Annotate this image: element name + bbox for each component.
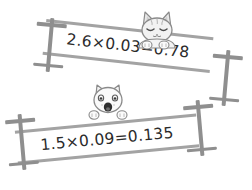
- bar-post-bottom-right: [188, 99, 213, 157]
- bar-post-top-left: [38, 17, 63, 73]
- equation-bar-top: 2.6×0.03=0.78: [43, 19, 214, 73]
- bar-post-bottom-left: [10, 113, 35, 171]
- equation-top-text: 2.6×0.03=0.78: [43, 19, 214, 73]
- bar-post-top-right: [214, 49, 239, 107]
- cat-surprised-icon: [86, 82, 130, 122]
- illustration-canvas: 1.5×0.09=0.135 2.6×0.03=0.78: [0, 0, 252, 190]
- cat-sleeping-icon: [133, 8, 179, 50]
